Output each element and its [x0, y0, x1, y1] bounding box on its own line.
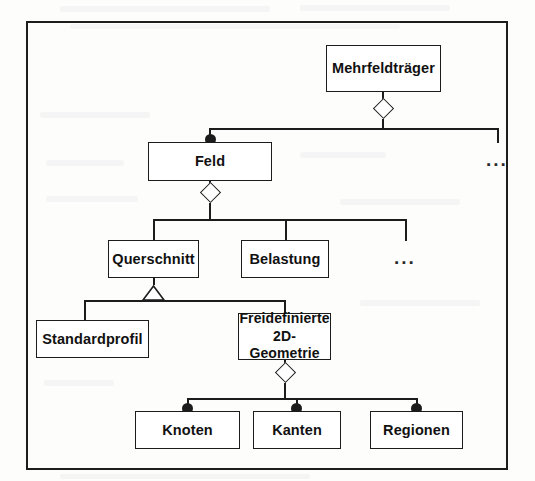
node-mehrfeldtraeger[interactable]: Mehrfeldträger [326, 45, 441, 92]
bus-mehrfeldtraeger [209, 128, 498, 130]
node-belastung[interactable]: Belastung [241, 240, 329, 278]
ellipsis-querschnitt-siblings: ... [394, 248, 416, 267]
connector-bus-to-querschnitt [153, 219, 155, 240]
node-label: Mehrfeldträger [332, 60, 435, 76]
node-kanten[interactable]: Kanten [253, 411, 341, 449]
bus-geometry-parts [187, 398, 417, 400]
bus-feld [153, 219, 406, 221]
node-label: Belastung [250, 251, 321, 267]
node-label: Standardprofil [42, 331, 143, 347]
node-feld[interactable]: Feld [148, 142, 272, 181]
paper-artifact [60, 6, 270, 12]
generalization-triangle [142, 285, 165, 301]
node-label: Kanten [272, 422, 322, 438]
connector-querschnitt-stem [153, 278, 155, 285]
node-freidefinierte-2d-geometrie[interactable]: Freidefinierte 2D-Geometrie [238, 313, 331, 360]
node-regionen[interactable]: Regionen [370, 411, 463, 449]
node-label: Regionen [383, 422, 450, 438]
connector-freidefinierte-to-bus [284, 383, 286, 399]
bus-querschnitt-subtypes [84, 300, 285, 302]
diagram-canvas: Mehrfeldträger Feld Querschnitt Belastun… [0, 0, 535, 481]
node-knoten[interactable]: Knoten [135, 411, 240, 449]
paper-artifact [300, 5, 450, 11]
node-label-line1: Freidefinierte [239, 310, 329, 328]
node-querschnitt[interactable]: Querschnitt [108, 240, 199, 278]
connector-feld-to-bus [209, 203, 211, 220]
node-label-line2: 2D-Geometrie [243, 328, 326, 363]
connector-bus-to-belastung [285, 219, 287, 240]
connector-bus-to-ellipsis-feld [497, 128, 499, 143]
ellipsis-feld-siblings: ... [486, 150, 508, 169]
connector-bus-to-standardprofil [84, 300, 86, 320]
connector-bus-to-ellipsis-querschnitt [405, 219, 407, 241]
node-label: Querschnitt [112, 251, 194, 267]
node-label: Feld [195, 153, 225, 169]
node-standardprofil[interactable]: Standardprofil [36, 320, 149, 358]
paper-artifact [60, 474, 310, 479]
node-label: Knoten [162, 422, 213, 438]
